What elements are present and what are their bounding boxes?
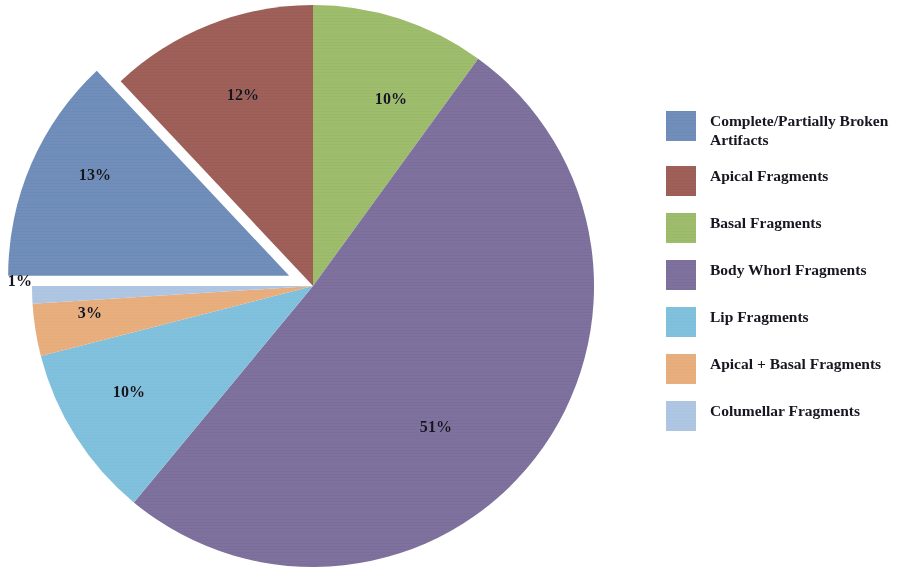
legend-swatch-icon [666,307,696,337]
pie-label-lip-fragments: 10% [113,383,146,401]
legend-item-basal-fragments[interactable]: Basal Fragments [666,212,906,243]
pie-chart-plot-area: 12%10%51%10%3%1%13% [0,0,660,571]
legend-swatch-icon [666,260,696,290]
legend-swatch-icon [666,213,696,243]
legend-item-complete-partially-broken-artifacts[interactable]: Complete/Partially Broken Artifacts [666,110,906,149]
legend-item-apical-fragments[interactable]: Apical Fragments [666,165,906,196]
pie-label-complete-partially-broken: 13% [79,166,112,184]
legend-swatch-icon [666,401,696,431]
pie-label-apical-fragments: 12% [227,86,260,104]
pie-label-columellar-fragments: 1% [8,272,32,290]
legend-item-label: Complete/Partially Broken Artifacts [710,110,906,149]
pie-chart-figure: 12%10%51%10%3%1%13% Complete/Partially B… [0,0,906,571]
legend-item-label: Apical + Basal Fragments [710,353,881,373]
legend-item-columellar-fragments[interactable]: Columellar Fragments [666,400,906,431]
legend-swatch-icon [666,111,696,141]
chart-legend: Complete/Partially Broken ArtifactsApica… [666,110,906,447]
pie-label-basal-fragments: 10% [375,90,408,108]
legend-item-label: Apical Fragments [710,165,828,185]
legend-item-label: Columellar Fragments [710,400,860,420]
legend-item-apical-basal-fragments[interactable]: Apical + Basal Fragments [666,353,906,384]
pie-chart-svg [0,0,660,571]
legend-swatch-icon [666,166,696,196]
legend-swatch-icon [666,354,696,384]
legend-item-label: Body Whorl Fragments [710,259,866,279]
pie-label-apical-basal-fragments: 3% [78,304,102,322]
legend-item-lip-fragments[interactable]: Lip Fragments [666,306,906,337]
legend-item-label: Basal Fragments [710,212,822,232]
legend-item-body-whorl-fragments[interactable]: Body Whorl Fragments [666,259,906,290]
pie-label-body-whorl-fragments: 51% [420,418,453,436]
legend-item-label: Lip Fragments [710,306,809,326]
